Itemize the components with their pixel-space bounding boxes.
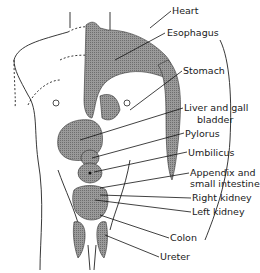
label-umbilicus: Umbilicus [188, 148, 234, 158]
label-liver: Liver and gall [184, 103, 248, 113]
label-esophagus: Esophagus [167, 28, 219, 38]
label-appendix-cont: small intestine [190, 179, 260, 189]
label-liver-cont: bladder [197, 115, 233, 125]
torso-diagram [0, 0, 260, 273]
label-colon: Colon [170, 233, 197, 243]
label-heart: Heart [172, 6, 198, 16]
label-right-kidney: Right kidney [192, 193, 252, 203]
label-appendix: Appendix and [190, 168, 256, 178]
label-pylorus: Pylorus [185, 129, 220, 139]
label-left-kidney: Left kidney [192, 207, 245, 217]
label-ureter: Ureter [160, 252, 190, 262]
label-stomach: Stomach [183, 66, 225, 76]
nipple-right [124, 100, 130, 106]
nipple-left [53, 100, 59, 106]
